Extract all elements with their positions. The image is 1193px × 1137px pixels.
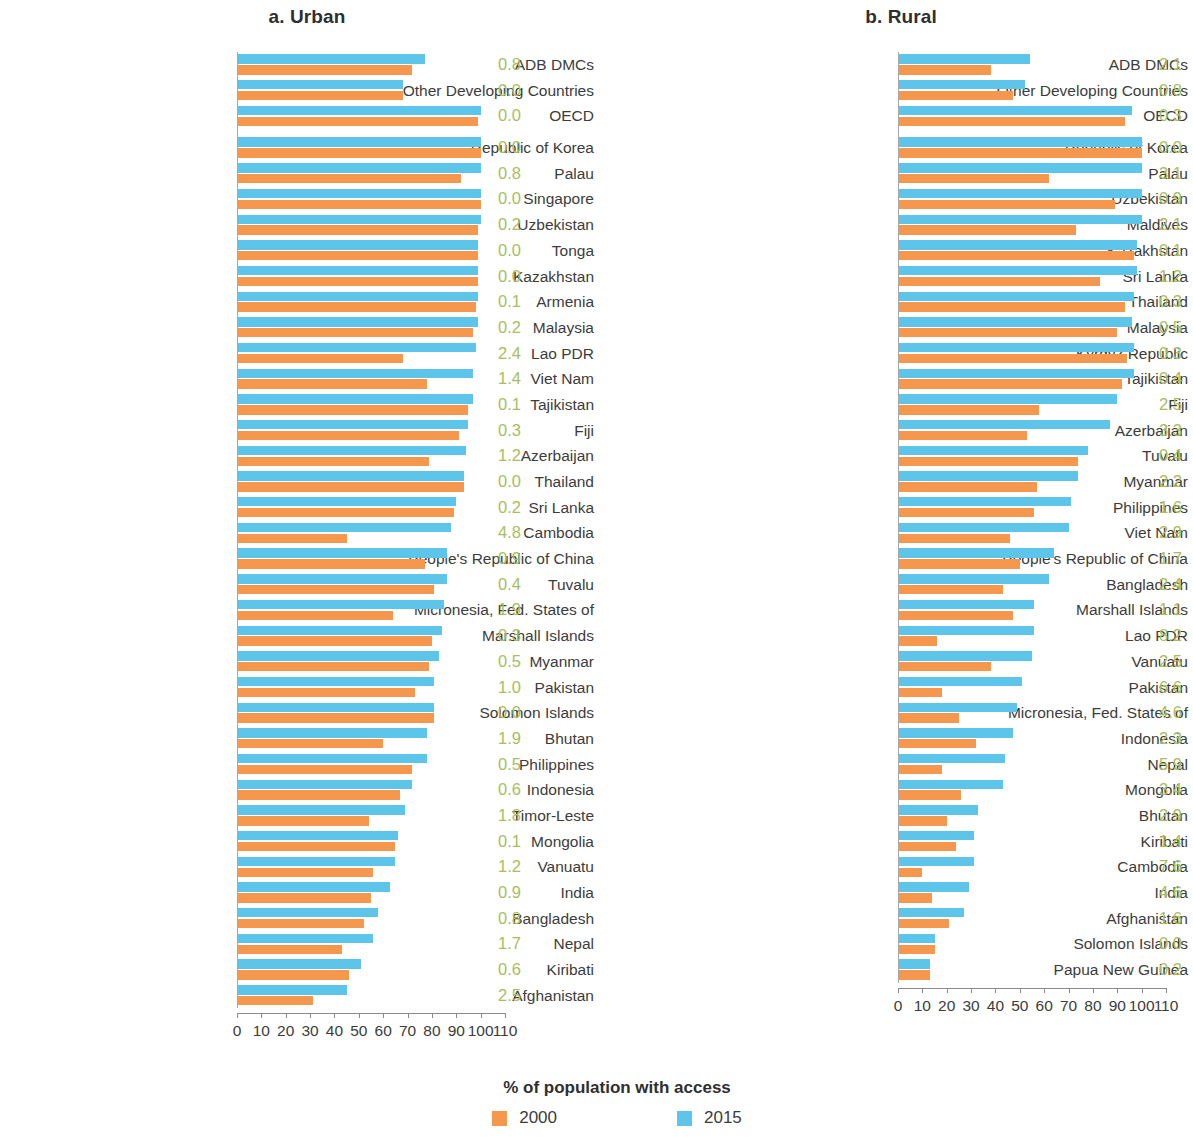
growth-rate-value: 0.0 bbox=[498, 78, 521, 104]
chart-row: Thailand0.3 bbox=[594, 289, 1188, 315]
growth-rate-value: 6.6 bbox=[1159, 675, 1182, 701]
chart-row: People's Republic of China1.7 bbox=[594, 546, 1188, 572]
growth-rate-value: 2.9 bbox=[1159, 520, 1182, 546]
x-axis-tick bbox=[481, 1013, 482, 1018]
bar-group bbox=[898, 931, 1166, 957]
chart-row: Viet Nam1.4 bbox=[0, 366, 594, 392]
bar-2015 bbox=[237, 934, 373, 943]
bar-2000 bbox=[237, 611, 393, 620]
growth-rate-value: 0.0 bbox=[498, 135, 521, 161]
bar-2015 bbox=[898, 420, 1110, 429]
x-axis-tick-label: 20 bbox=[938, 997, 955, 1015]
bar-group bbox=[898, 854, 1166, 880]
bar-2000 bbox=[237, 585, 434, 594]
bar-group bbox=[237, 675, 505, 701]
bar-2015 bbox=[898, 882, 969, 891]
x-axis-tick-label: 90 bbox=[448, 1022, 465, 1040]
bar-group bbox=[237, 418, 505, 444]
bar-group bbox=[898, 469, 1166, 495]
bar-group bbox=[898, 520, 1166, 546]
bar-2015 bbox=[898, 137, 1142, 146]
chart-row: OECD0.3 bbox=[594, 103, 1188, 129]
growth-rate-value: 2.5 bbox=[498, 983, 521, 1009]
growth-rate-value: 1.2 bbox=[498, 443, 521, 469]
category-row-list: ADB DMCs2.1Other Developing Countries0.8… bbox=[594, 52, 1188, 983]
bar-2000 bbox=[898, 457, 1078, 466]
growth-rate-value: 0.2 bbox=[1159, 957, 1182, 983]
x-axis-tick bbox=[1093, 988, 1094, 993]
chart-row: Republic of Korea0.0 bbox=[594, 135, 1188, 161]
x-axis-tick-label: 0 bbox=[233, 1022, 242, 1040]
bar-2015 bbox=[237, 369, 473, 378]
bar-2000 bbox=[898, 200, 1115, 209]
bar-2015 bbox=[237, 754, 427, 763]
bar-2015 bbox=[237, 908, 378, 917]
chart-row: Palau0.8 bbox=[0, 161, 594, 187]
growth-rate-value: 2.4 bbox=[498, 341, 521, 367]
x-axis-tick bbox=[310, 1013, 311, 1018]
bar-group bbox=[237, 186, 505, 212]
x-axis-tick bbox=[947, 988, 948, 993]
bar-group bbox=[898, 418, 1166, 444]
growth-rate-value: 2.3 bbox=[1159, 726, 1182, 752]
bar-2000 bbox=[237, 251, 478, 260]
bar-group bbox=[898, 726, 1166, 752]
bar-group bbox=[237, 649, 505, 675]
bar-2000 bbox=[237, 117, 478, 126]
bar-2015 bbox=[898, 215, 1142, 224]
bar-2015 bbox=[237, 215, 481, 224]
bar-group bbox=[237, 366, 505, 392]
chart-row: Palau3.1 bbox=[594, 161, 1188, 187]
bar-group bbox=[237, 803, 505, 829]
bar-group bbox=[898, 315, 1166, 341]
bar-2015 bbox=[237, 317, 478, 326]
bar-group bbox=[237, 726, 505, 752]
bar-2000 bbox=[237, 893, 371, 902]
bar-2015 bbox=[898, 574, 1049, 583]
bar-2000 bbox=[898, 302, 1125, 311]
bar-2000 bbox=[237, 790, 400, 799]
x-axis-tick bbox=[1166, 988, 1167, 993]
panel-urban: a. Urban ADB DMCs0.8Other Developing Cou… bbox=[0, 0, 594, 1090]
x-axis-tick-label: 0 bbox=[894, 997, 903, 1015]
bar-2015 bbox=[898, 780, 1003, 789]
growth-rate-value: 0.2 bbox=[498, 495, 521, 521]
bar-2000 bbox=[237, 996, 313, 1005]
bar-2015 bbox=[237, 497, 456, 506]
growth-rate-value: 1.4 bbox=[1159, 829, 1182, 855]
bar-2015 bbox=[237, 420, 468, 429]
bar-group bbox=[898, 366, 1166, 392]
bar-group bbox=[237, 315, 505, 341]
growth-rate-value: 0.2 bbox=[498, 212, 521, 238]
bar-2015 bbox=[237, 677, 434, 686]
growth-rate-value: 4.8 bbox=[498, 520, 521, 546]
bar-2000 bbox=[237, 277, 478, 286]
growth-rate-value: 3.4 bbox=[1159, 777, 1182, 803]
bar-2000 bbox=[898, 970, 930, 979]
bar-2000 bbox=[898, 790, 961, 799]
bar-2000 bbox=[237, 302, 476, 311]
y-axis-spine bbox=[237, 52, 238, 1008]
growth-rate-value: 0.0 bbox=[498, 264, 521, 290]
bar-group bbox=[898, 289, 1166, 315]
growth-rate-value: 2.2 bbox=[1159, 469, 1182, 495]
bar-2015 bbox=[898, 831, 974, 840]
chart-row: Republic of Korea0.0 bbox=[0, 135, 594, 161]
x-axis-tick-label: 50 bbox=[1011, 997, 1028, 1015]
chart-row: Singapore0.0 bbox=[0, 186, 594, 212]
bar-group bbox=[898, 675, 1166, 701]
bar-group bbox=[237, 931, 505, 957]
chart-row: Indonesia2.3 bbox=[594, 726, 1188, 752]
chart-row: Azerbaijan1.2 bbox=[0, 443, 594, 469]
x-axis-tick-label: 20 bbox=[277, 1022, 294, 1040]
x-axis-tick-label: 60 bbox=[1036, 997, 1053, 1015]
chart-row: Tuvalu0.4 bbox=[594, 443, 1188, 469]
bar-2000 bbox=[898, 919, 949, 928]
chart-row: Tajikistan0.4 bbox=[594, 366, 1188, 392]
x-axis-tick-label: 100 bbox=[1129, 997, 1155, 1015]
chart-row: Kiribati1.4 bbox=[594, 829, 1188, 855]
bar-2015 bbox=[898, 163, 1142, 172]
bar-2000 bbox=[898, 405, 1039, 414]
growth-rate-value: 0.0 bbox=[498, 700, 521, 726]
x-axis-tick-label: 110 bbox=[1154, 997, 1179, 1015]
